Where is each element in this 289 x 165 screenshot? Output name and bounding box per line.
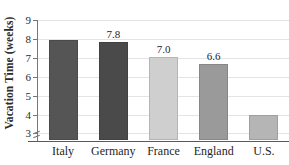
- x-axis-tick-labels: ItalyGermanyFranceEnglandU.S.: [38, 144, 289, 164]
- x-axis-line: [28, 141, 289, 142]
- y-tick-label: 4: [1, 109, 31, 121]
- x-tick-label: England: [194, 144, 234, 159]
- bar-us[interactable]: [249, 115, 278, 140]
- x-tick-label: U.S.: [253, 144, 274, 159]
- y-tick-mark: [33, 115, 38, 116]
- bar-value-label: 7.8: [106, 28, 120, 40]
- bar-germany[interactable]: [99, 42, 128, 140]
- y-tick-mark: [33, 39, 38, 40]
- bar-england[interactable]: [199, 64, 228, 140]
- y-tick-mark: [33, 58, 38, 59]
- y-tick-label: 7: [1, 52, 31, 64]
- y-tick-label: 9: [1, 14, 31, 26]
- y-tick-label: 6: [1, 71, 31, 83]
- y-tick-mark: [33, 20, 38, 21]
- y-axis-tick-labels: 3456789: [0, 0, 31, 165]
- y-tick-mark: [33, 133, 38, 134]
- y-tick-label: 3: [1, 127, 31, 139]
- x-tick-label: Germany: [91, 144, 136, 159]
- y-tick-mark: [33, 77, 38, 78]
- y-tick-mark: [33, 96, 38, 97]
- bar-chart-figure: Vacation Time (weeks) 3456789 7.87.06.6 …: [0, 0, 289, 165]
- gridline: [38, 20, 289, 21]
- bar-italy[interactable]: [49, 40, 78, 140]
- y-tick-label: 8: [1, 33, 31, 45]
- x-tick-label: Italy: [52, 144, 74, 159]
- x-tick-label: France: [147, 144, 180, 159]
- bar-value-label: 6.6: [207, 50, 221, 62]
- bar-value-label: 7.0: [157, 43, 171, 55]
- plot-area: 7.87.06.6: [38, 20, 289, 140]
- y-tick-label: 5: [1, 90, 31, 102]
- bar-france[interactable]: [149, 57, 178, 140]
